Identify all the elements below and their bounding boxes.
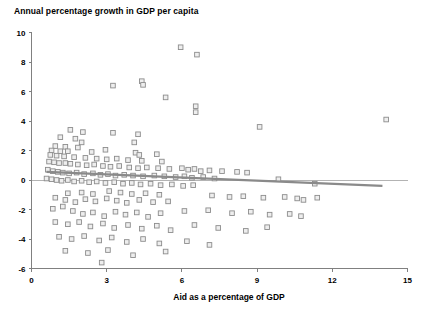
data-point — [71, 209, 76, 214]
data-point — [178, 45, 183, 50]
data-point — [249, 209, 254, 214]
data-point — [191, 183, 196, 188]
data-point — [91, 210, 96, 215]
data-point — [114, 198, 119, 203]
data-point — [112, 180, 117, 185]
data-point — [47, 159, 52, 164]
data-point — [81, 130, 86, 135]
data-point — [84, 163, 89, 168]
y-tick-label: 0 — [21, 176, 26, 185]
y-tick-label: 2 — [21, 147, 26, 156]
data-point — [227, 195, 232, 200]
data-point — [157, 241, 162, 246]
data-point — [113, 209, 118, 214]
data-point — [127, 165, 132, 170]
data-point — [207, 168, 212, 173]
data-point — [112, 226, 117, 231]
data-point — [137, 153, 142, 158]
data-point — [182, 209, 187, 214]
data-point — [107, 189, 112, 194]
data-point — [155, 223, 160, 228]
data-point — [103, 181, 108, 186]
data-point — [44, 176, 49, 181]
data-point — [295, 196, 300, 201]
data-point — [101, 164, 106, 169]
data-point — [102, 214, 107, 219]
data-point — [49, 177, 54, 182]
data-point — [79, 140, 84, 145]
data-point — [59, 178, 64, 183]
data-point — [136, 166, 141, 171]
data-point — [66, 149, 71, 154]
y-tick-label: -4 — [18, 235, 26, 244]
data-point — [66, 222, 71, 227]
data-point — [301, 198, 306, 203]
data-point — [145, 165, 150, 170]
data-point — [58, 135, 63, 140]
data-point — [69, 237, 74, 242]
data-point — [287, 212, 292, 217]
data-point — [160, 159, 165, 164]
data-point — [53, 220, 58, 225]
data-point — [124, 240, 129, 245]
y-tick-label: 6 — [21, 88, 26, 97]
x-tick-label: 12 — [328, 276, 337, 285]
data-point — [163, 95, 168, 100]
data-point — [61, 204, 66, 209]
data-point — [123, 212, 128, 217]
y-tick-label: 4 — [21, 117, 26, 126]
data-point — [166, 199, 171, 204]
data-point — [126, 158, 131, 163]
data-point — [198, 169, 203, 174]
data-point — [299, 214, 304, 219]
data-point — [104, 157, 109, 162]
data-point — [167, 167, 172, 172]
data-point — [68, 161, 73, 166]
data-point — [129, 192, 134, 197]
data-point — [53, 144, 58, 149]
data-point — [156, 166, 161, 171]
data-points-layer — [44, 45, 388, 265]
data-point — [48, 153, 53, 158]
data-point — [151, 200, 156, 205]
data-point — [99, 260, 104, 265]
data-point — [109, 235, 114, 240]
data-point — [57, 161, 62, 166]
data-point — [124, 201, 129, 206]
data-point — [134, 210, 139, 215]
data-point — [129, 181, 134, 186]
data-point — [101, 221, 106, 226]
data-point — [139, 159, 144, 164]
data-point — [315, 195, 320, 200]
data-point — [91, 192, 96, 197]
data-point — [111, 131, 116, 136]
data-point — [54, 153, 59, 158]
data-point — [210, 193, 215, 198]
data-point — [121, 181, 126, 186]
data-point — [76, 162, 81, 167]
data-point — [126, 223, 131, 228]
data-point — [261, 195, 266, 200]
data-point — [62, 154, 67, 159]
chart-figure: Annual percentage growth in GDP per capi… — [0, 0, 429, 309]
data-point — [81, 212, 86, 217]
data-point — [94, 156, 99, 161]
y-tick-label: 8 — [21, 58, 26, 67]
data-point — [54, 178, 59, 183]
data-point — [148, 181, 153, 186]
data-point — [88, 224, 93, 229]
data-point — [257, 125, 262, 130]
data-point — [77, 220, 82, 225]
data-point — [157, 192, 162, 197]
data-point — [51, 206, 56, 211]
data-point — [138, 182, 143, 187]
data-point — [103, 147, 108, 152]
data-point — [181, 184, 186, 189]
data-point — [186, 167, 191, 172]
data-point — [132, 140, 137, 145]
data-point — [93, 199, 98, 204]
data-point — [131, 253, 136, 258]
x-tick-label: 15 — [403, 276, 412, 285]
data-point — [180, 166, 185, 171]
data-point — [52, 160, 57, 165]
